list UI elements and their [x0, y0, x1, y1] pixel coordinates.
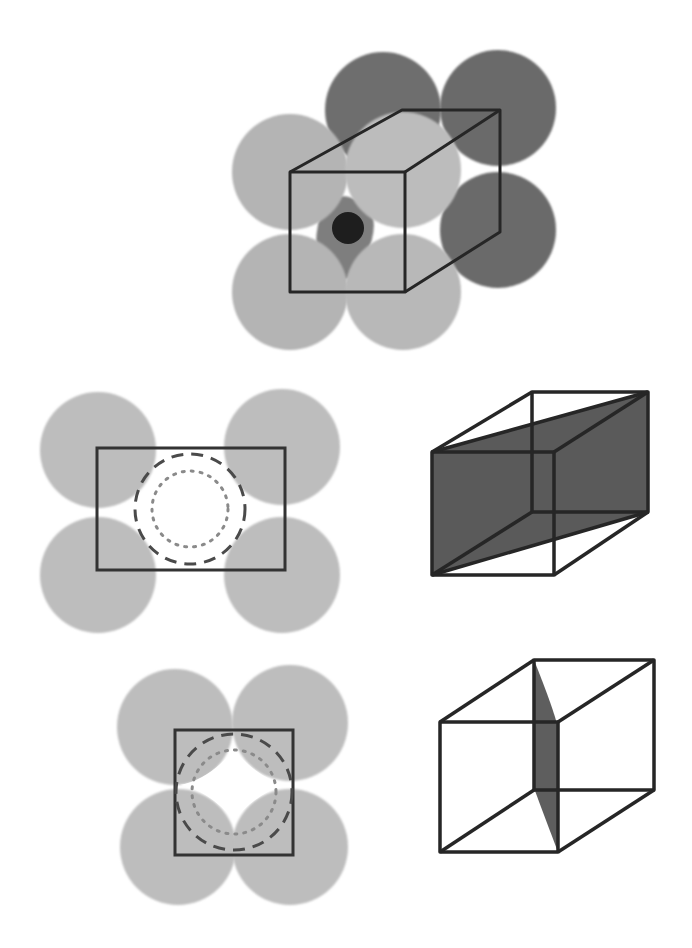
square-section-panel — [110, 655, 360, 915]
edge-plane-cube-graphic — [430, 650, 670, 870]
interstitial-atom — [332, 212, 364, 244]
diagonal-plane-cube-panel — [420, 380, 670, 590]
unit-cell-3d-graphic — [220, 20, 570, 360]
rect-section-panel — [30, 385, 350, 635]
back-sphere-top-right — [440, 50, 556, 166]
square-section-graphic — [110, 655, 360, 915]
rect-section-graphic — [30, 385, 350, 635]
diagonal-plane-cube-graphic — [420, 380, 670, 590]
front-sphere-top-right — [345, 112, 461, 228]
section-sphere-bottom-right — [224, 517, 340, 633]
shaded-edge-plane — [534, 660, 558, 852]
section-sphere-bottom-right — [232, 789, 348, 905]
shaded-diagonal-plane — [432, 392, 648, 575]
section-sphere-top-right — [232, 665, 348, 781]
unit-cell-3d-panel — [220, 20, 570, 360]
dotted-void-circle — [152, 471, 228, 547]
edge-plane-cube-panel — [430, 650, 670, 870]
